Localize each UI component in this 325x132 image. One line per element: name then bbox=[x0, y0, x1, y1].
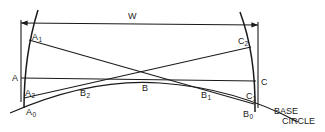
svg-text:B: B bbox=[142, 83, 148, 93]
w-label: W bbox=[128, 11, 137, 21]
svg-text:CIRCLE: CIRCLE bbox=[282, 116, 315, 126]
svg-text:0: 0 bbox=[250, 113, 254, 120]
svg-text:C: C bbox=[261, 77, 268, 87]
point-b-label: B bbox=[142, 83, 148, 93]
point-c2-label: C 2 bbox=[238, 36, 249, 47]
point-a1-label: A 1 bbox=[32, 32, 43, 43]
svg-text:A: A bbox=[12, 73, 18, 83]
line-a2-c2 bbox=[24, 47, 251, 98]
svg-text:1: 1 bbox=[39, 36, 43, 43]
svg-text:A: A bbox=[25, 88, 31, 98]
svg-text:BASE: BASE bbox=[274, 106, 298, 116]
point-a-label: A bbox=[12, 73, 18, 83]
point-b0-label: B 0 bbox=[243, 109, 254, 120]
span-width-diagram: W A 1 A A 2 A 0 B 2 B B 1 B 0 C 2 C C 1 … bbox=[0, 0, 325, 132]
line-a-c bbox=[21, 78, 256, 81]
svg-text:A: A bbox=[32, 32, 38, 42]
svg-text:1: 1 bbox=[253, 95, 257, 102]
svg-text:0: 0 bbox=[33, 111, 37, 118]
svg-text:2: 2 bbox=[87, 92, 91, 99]
svg-text:B: B bbox=[80, 88, 86, 98]
point-a0-label: A 0 bbox=[26, 107, 37, 118]
point-a2-label: A 2 bbox=[25, 88, 36, 99]
point-b2-label: B 2 bbox=[80, 88, 91, 99]
point-c-label: C bbox=[261, 77, 268, 87]
svg-text:2: 2 bbox=[32, 92, 36, 99]
w-dimension-line bbox=[21, 23, 258, 25]
base-circle-label: BASE CIRCLE bbox=[274, 106, 315, 126]
svg-text:A: A bbox=[26, 107, 32, 117]
svg-text:1: 1 bbox=[208, 94, 212, 101]
svg-text:B: B bbox=[201, 90, 207, 100]
svg-text:B: B bbox=[243, 109, 249, 119]
svg-text:2: 2 bbox=[245, 40, 249, 47]
